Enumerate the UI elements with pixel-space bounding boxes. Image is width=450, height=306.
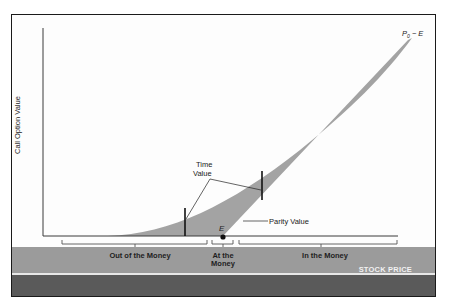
bracket-out-of-the-money <box>62 240 207 247</box>
time-value-label-line2: Value <box>193 169 212 178</box>
strike-label: E <box>219 224 225 233</box>
x-axis-label: STOCK PRICE <box>359 265 412 274</box>
time-value-area <box>108 38 412 236</box>
time-value-label-line1: Time <box>196 160 212 169</box>
p0-minus-e-label: P0 − E <box>402 29 424 39</box>
region-label-at-line2: Money <box>203 260 243 268</box>
parity-value-label: Parity Value <box>269 217 309 226</box>
bracket-in-the-money <box>239 240 397 247</box>
strike-point <box>220 234 225 239</box>
region-label-out-of-the-money: Out of the Money <box>100 252 180 260</box>
y-axis-label: Call Option Value <box>13 96 22 154</box>
region-label-at-the-money: At the Money <box>203 252 243 268</box>
bracket-at-the-money <box>212 240 233 247</box>
region-label-in-the-money: In the Money <box>285 252 365 260</box>
